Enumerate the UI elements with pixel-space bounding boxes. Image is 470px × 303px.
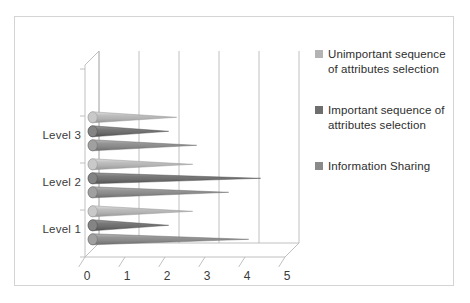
x-tick-label-3: 3: [197, 269, 217, 283]
chart-canvas: [15, 17, 315, 285]
legend-item-unimportant: Unimportant sequence of attributes selec…: [315, 47, 455, 77]
legend-label: Unimportant sequence of attributes selec…: [328, 47, 455, 77]
category-label-level-2: Level 2: [21, 176, 81, 188]
x-tick-label-4: 4: [237, 269, 257, 283]
legend-swatch-icon: [315, 162, 323, 170]
category-label-level-3: Level 3: [21, 129, 81, 141]
legend-swatch-icon: [315, 50, 323, 58]
chart-legend: Unimportant sequence of attributes selec…: [315, 47, 455, 200]
x-tick-label-1: 1: [117, 269, 137, 283]
plot-area: Level 3 Level 2 Level 1 0 1 2 3 4 5: [15, 17, 315, 285]
chart-frame: Level 3 Level 2 Level 1 0 1 2 3 4 5 Unim…: [14, 16, 454, 286]
x-tick-label-5: 5: [277, 269, 297, 283]
legend-swatch-icon: [315, 106, 323, 114]
category-label-level-1: Level 1: [21, 223, 81, 235]
x-tick-label-0: 0: [77, 269, 97, 283]
legend-item-important: Important sequence of attributes selecti…: [315, 103, 455, 133]
legend-label: Important sequence of attributes selecti…: [328, 103, 455, 133]
legend-item-information-sharing: Information Sharing: [315, 159, 455, 174]
x-tick-label-2: 2: [157, 269, 177, 283]
legend-label: Information Sharing: [328, 159, 430, 174]
